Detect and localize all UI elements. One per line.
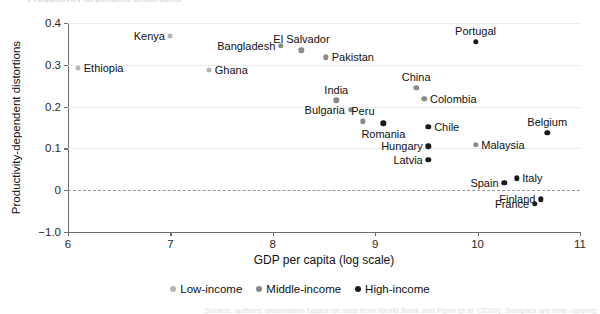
x-axis-tick-mark xyxy=(580,232,581,236)
data-point-label: Pakistan xyxy=(332,51,374,63)
data-point-label: Portugal xyxy=(455,25,496,37)
legend-item-middle-income[interactable]: Middle-income xyxy=(256,283,341,295)
x-axis-tick-mark xyxy=(68,232,69,236)
data-point[interactable] xyxy=(168,33,173,38)
data-point-label: Hungary xyxy=(381,140,423,152)
y-axis-tick-label: 0.3 xyxy=(45,59,61,71)
legend-marker-icon xyxy=(355,286,361,292)
data-point-label: Bulgaria xyxy=(305,104,345,116)
x-axis-tick-label: 7 xyxy=(167,238,173,250)
y-axis-tick-label: −1.0 xyxy=(38,226,61,238)
zero-reference-line xyxy=(68,190,580,191)
data-point-label: China xyxy=(402,71,431,83)
x-axis-tick-mark xyxy=(273,232,274,236)
legend-marker-icon xyxy=(256,286,262,292)
clipped-figure-title: Productivity-dependent distortions xyxy=(28,0,348,2)
legend-item-high-income[interactable]: High-income xyxy=(355,283,430,295)
data-point-label: El Salvador xyxy=(273,33,329,45)
y-axis-tick-mark xyxy=(64,190,68,191)
y-axis-tick-label: 0.1 xyxy=(45,142,61,154)
y-axis-tick-mark xyxy=(64,23,68,24)
data-point-label: France xyxy=(495,198,529,210)
data-point-label: Romania xyxy=(361,128,405,140)
data-point-label: Chile xyxy=(434,121,459,133)
legend-marker-icon xyxy=(170,286,176,292)
data-point-label: Peru xyxy=(351,105,374,117)
legend-label: High-income xyxy=(365,283,430,295)
clipped-source-note: Source: authors' elaboration based on da… xyxy=(150,306,598,314)
data-point-label: Colombia xyxy=(430,93,476,105)
y-axis-tick-label: 0 xyxy=(55,184,61,196)
data-point-label: Latvia xyxy=(393,154,422,166)
data-point-label: Spain xyxy=(470,177,498,189)
data-point[interactable] xyxy=(76,65,81,70)
y-axis-tick-mark xyxy=(64,148,68,149)
chart-legend: Low-incomeMiddle-incomeHigh-income xyxy=(0,283,600,295)
gridline xyxy=(68,65,580,66)
data-point-label: Kenya xyxy=(134,30,165,42)
y-axis-tick-label: 0.2 xyxy=(45,101,61,113)
data-point-label: Italy xyxy=(522,172,542,184)
legend-label: Low-income xyxy=(180,283,242,295)
x-axis-tick-mark xyxy=(170,232,171,236)
x-axis-tick-label: 6 xyxy=(65,238,71,250)
legend-label: Middle-income xyxy=(266,283,341,295)
y-axis-tick-mark xyxy=(64,107,68,108)
data-point-label: Ethiopia xyxy=(84,62,124,74)
gridline xyxy=(68,23,580,24)
x-axis-tick-mark xyxy=(375,232,376,236)
data-point-label: Bangladesh xyxy=(217,40,275,52)
y-axis-title-wrap: Productivity-dependent distortions xyxy=(10,23,24,232)
x-axis-tick-mark xyxy=(478,232,479,236)
plot-area: 0.40.30.20.10−1.067891011EthiopiaKenyaGh… xyxy=(68,23,580,232)
data-point-label: Malaysia xyxy=(481,139,524,151)
x-axis-line xyxy=(68,232,580,233)
x-axis-tick-label: 9 xyxy=(372,238,378,250)
legend-item-low-income[interactable]: Low-income xyxy=(170,283,242,295)
data-point-label: Ghana xyxy=(215,64,248,76)
x-axis-tick-label: 10 xyxy=(471,238,484,250)
y-axis-tick-mark xyxy=(64,65,68,66)
x-axis-tick-label: 8 xyxy=(270,238,276,250)
data-point[interactable] xyxy=(207,67,212,72)
data-point-label: India xyxy=(324,84,348,96)
x-axis-title: GDP per capita (log scale) xyxy=(68,253,580,267)
y-axis-title: Productivity-dependent distortions xyxy=(10,23,22,232)
x-axis-tick-label: 11 xyxy=(574,238,586,250)
y-axis-tick-label: 0.4 xyxy=(45,17,61,29)
data-point-label: Belgium xyxy=(527,116,567,128)
